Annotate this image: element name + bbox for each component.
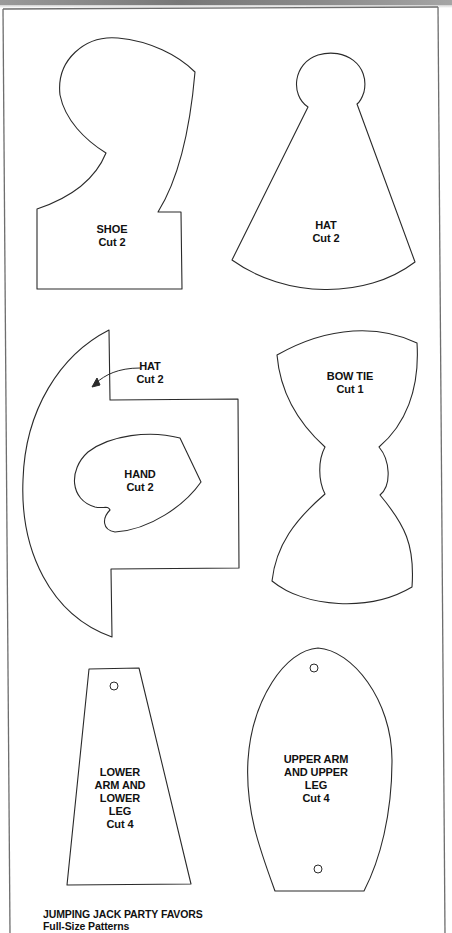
upper-arm-cut-count: Cut 4 bbox=[284, 792, 349, 805]
bow-tie-label: BOW TIE Cut 1 bbox=[327, 370, 373, 396]
upper-arm-top-hole-marker bbox=[310, 664, 318, 672]
hat-cut-count: Cut 2 bbox=[312, 232, 339, 245]
upper-arm-label: UPPER ARM AND UPPER LEG Cut 4 bbox=[284, 753, 349, 805]
hat-name: HAT bbox=[312, 219, 339, 232]
document-subtitle: Full-Size Patterns bbox=[43, 920, 203, 932]
upper-arm-line-1: UPPER ARM bbox=[284, 753, 349, 766]
hat-pattern-outline bbox=[232, 53, 415, 289]
lower-arm-label: LOWER ARM AND LOWER LEG Cut 4 bbox=[95, 766, 146, 831]
lower-arm-cut-count: Cut 4 bbox=[95, 818, 146, 831]
hand-cut-count: Cut 2 bbox=[124, 481, 155, 494]
hat-label: HAT Cut 2 bbox=[312, 219, 339, 245]
page-frame bbox=[3, 7, 445, 933]
hat-brim-arrow-icon bbox=[92, 368, 140, 387]
lower-arm-line-4: LEG bbox=[95, 805, 146, 818]
shoe-label: SHOE Cut 2 bbox=[97, 223, 128, 249]
upper-arm-line-3: LEG bbox=[284, 779, 349, 792]
upper-arm-line-2: AND UPPER bbox=[284, 766, 349, 779]
hand-name: HAND bbox=[124, 468, 155, 481]
lower-arm-line-1: LOWER bbox=[95, 766, 146, 779]
hat-brim-name: HAT bbox=[136, 360, 163, 373]
bow-tie-cut-count: Cut 1 bbox=[327, 383, 373, 396]
page-caption: JUMPING JACK PARTY FAVORS Full-Size Patt… bbox=[43, 908, 203, 932]
hand-label: HAND Cut 2 bbox=[124, 468, 155, 494]
bow-tie-name: BOW TIE bbox=[327, 370, 373, 383]
lower-arm-line-3: LOWER bbox=[95, 792, 146, 805]
hat-brim-cut-count: Cut 2 bbox=[136, 373, 163, 386]
upper-arm-bottom-hole-marker bbox=[314, 865, 322, 873]
document-title: JUMPING JACK PARTY FAVORS bbox=[43, 908, 203, 920]
lower-arm-hole-marker bbox=[110, 682, 118, 690]
pattern-sheet bbox=[0, 0, 452, 933]
hat-brim-label: HAT Cut 2 bbox=[136, 360, 163, 386]
shoe-name: SHOE bbox=[97, 223, 128, 236]
shoe-cut-count: Cut 2 bbox=[97, 236, 128, 249]
shoe-pattern-outline bbox=[37, 38, 195, 289]
lower-arm-line-2: ARM AND bbox=[95, 779, 146, 792]
